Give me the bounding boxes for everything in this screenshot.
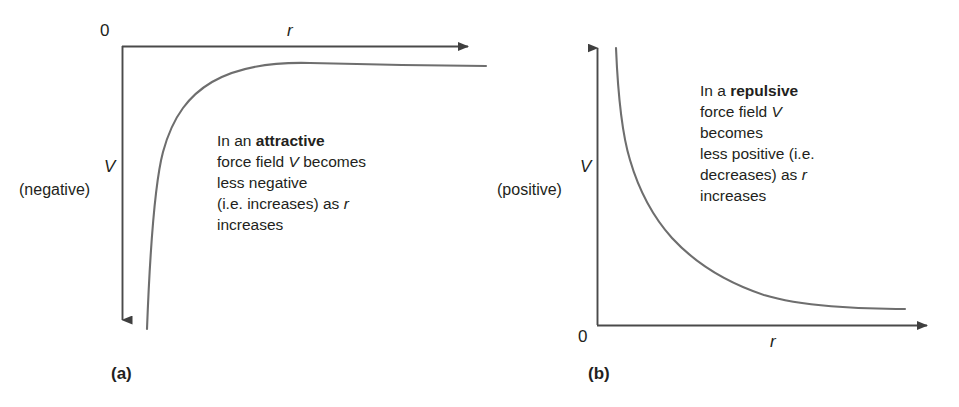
annotation-line-4: (i.e. increases) as r: [217, 193, 366, 214]
figure-canvas: [0, 0, 959, 407]
panel-b-y-axis-label: V: [580, 158, 591, 175]
annotation-line-2: force field V becomes: [217, 151, 366, 172]
panel-a-x-axis-label: r: [287, 22, 293, 39]
panel-b-caption: (b): [588, 365, 610, 382]
annotation-line-3: becomes: [700, 122, 815, 143]
annotation-line-5: decreases) as r: [700, 164, 815, 185]
annotation-line-6: increases: [700, 185, 815, 206]
panel-a-annotation: In an attractiveforce field V becomesles…: [217, 130, 366, 235]
potential-energy-figure: 0 r V (negative) In an attractiveforce f…: [0, 0, 959, 407]
annotation-line-5: increases: [217, 214, 366, 235]
panel-b-y-axis-sign: (positive): [497, 182, 562, 198]
panel-a-origin-label: 0: [100, 22, 109, 39]
panel-b-origin-label: 0: [578, 328, 587, 345]
annotation-line-4: less positive (i.e.: [700, 143, 815, 164]
annotation-line-1: In a repulsive: [700, 80, 815, 101]
annotation-line-2: force field V: [700, 101, 815, 122]
panel-a-y-axis-sign: (negative): [19, 182, 90, 198]
annotation-line-1: In an attractive: [217, 130, 366, 151]
annotation-line-3: less negative: [217, 172, 366, 193]
panel-b-annotation: In a repulsiveforce field Vbecomesless p…: [700, 80, 815, 206]
panel-b-x-axis-label: r: [770, 333, 776, 350]
panel-a-caption: (a): [111, 365, 132, 382]
panel-a-y-axis-label: V: [104, 158, 115, 175]
